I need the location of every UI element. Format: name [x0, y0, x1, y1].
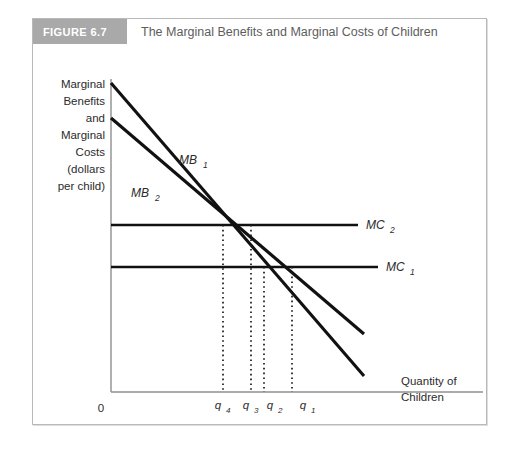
y-axis-label-line-1: Marginal [61, 78, 105, 90]
figure-header: FIGURE 6.7 The Marginal Benefits and Mar… [33, 19, 486, 44]
x-tick-label-q1: q 1 [300, 399, 316, 415]
mc2-curve-label-base: MC [366, 218, 385, 232]
mb1-curve-group [111, 83, 364, 376]
y-axis-label: Marginal Benefits and Marginal Costs (do… [58, 78, 106, 192]
x-tick-label-q2: q 2 [267, 399, 283, 415]
plot-area: Marginal Benefits and Marginal Costs (do… [33, 44, 488, 426]
mc1-curve-label: MC 1 [386, 260, 415, 277]
figure-root: FIGURE 6.7 The Marginal Benefits and Mar… [0, 0, 507, 449]
mb2-curve-label-base: MB [131, 186, 149, 200]
mc2-curve-label-sub: 2 [389, 225, 395, 235]
mc2-curve-label: MC 2 [366, 218, 395, 235]
mc1-curve-label-base: MC [386, 260, 405, 274]
mb1-curve-label-base: MB [179, 153, 197, 167]
y-axis-label-line-5: Costs [76, 146, 106, 158]
x-axis-label: Quantity of Children [401, 375, 457, 403]
x-tick-q1-sub: 1 [311, 406, 315, 415]
x-tick-q3-sub: 3 [254, 406, 259, 415]
x-tick-q4-base: q [215, 399, 222, 411]
mc1-curve-label-sub: 1 [410, 267, 415, 277]
mb1-curve-label-sub: 1 [203, 160, 208, 170]
y-axis-label-line-2: Benefits [63, 95, 105, 107]
mb2-curve-label: MB 2 [131, 186, 160, 203]
y-axis-label-line-6: (dollars [67, 163, 105, 175]
x-tick-label-q4: q 4 [215, 399, 231, 415]
y-axis-label-line-7: per child) [58, 180, 105, 192]
origin-label: 0 [98, 402, 104, 414]
figure-frame: FIGURE 6.7 The Marginal Benefits and Mar… [32, 18, 487, 425]
x-tick-q1-base: q [300, 399, 307, 411]
x-tick-q2-base: q [267, 399, 274, 411]
figure-title: The Marginal Benefits and Marginal Costs… [127, 19, 486, 44]
x-axis-label-line-2: Children [401, 391, 444, 403]
mb2-curve-label-sub: 2 [154, 193, 160, 203]
x-tick-q2-sub: 2 [277, 406, 283, 415]
y-axis-label-line-3: and [86, 112, 105, 124]
chart-svg: Marginal Benefits and Marginal Costs (do… [33, 44, 488, 426]
x-tick-label-q3: q 3 [243, 399, 259, 415]
figure-number-tag: FIGURE 6.7 [33, 19, 127, 44]
x-axis-label-line-1: Quantity of [401, 375, 457, 387]
axes-group [111, 79, 483, 392]
x-tick-q4-sub: 4 [226, 406, 231, 415]
y-axis-label-line-4: Marginal [61, 129, 105, 141]
x-tick-q3-base: q [243, 399, 250, 411]
mb1-curve [111, 83, 364, 376]
